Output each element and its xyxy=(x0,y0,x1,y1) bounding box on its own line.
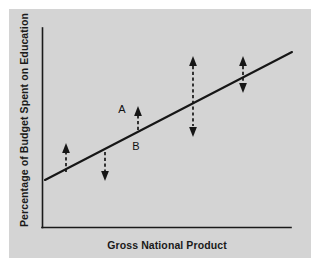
arrow-up-icon xyxy=(62,143,70,153)
arrow-up-icon xyxy=(239,56,247,66)
arrow-down-icon xyxy=(239,83,247,93)
arrow-up-icon xyxy=(134,106,142,116)
arrow-down-icon xyxy=(189,127,197,137)
arrow-down-icon xyxy=(101,171,109,181)
y-axis-title: Percentage of Budget Spent on Education xyxy=(18,13,30,227)
point-label-a: A xyxy=(118,103,126,115)
residual-marker-5 xyxy=(239,56,247,93)
x-axis-title: Gross National Product xyxy=(107,239,227,251)
point-label-b: B xyxy=(132,140,139,152)
regression-line xyxy=(45,52,292,180)
chart-figure-panel: A B Percentage of Budget Spent on Educat… xyxy=(9,9,311,258)
residual-marker-2 xyxy=(101,152,109,181)
scatter-plot-svg: A B Percentage of Budget Spent on Educat… xyxy=(9,9,311,258)
residual-marker-4 xyxy=(189,56,197,137)
residual-marker-3 xyxy=(134,106,142,130)
arrow-up-icon xyxy=(189,56,197,66)
